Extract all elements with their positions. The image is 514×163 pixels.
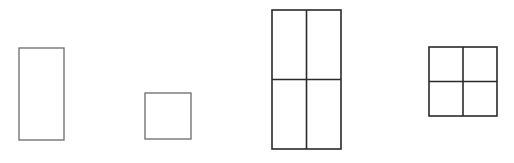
- small-square-outline: [145, 93, 191, 139]
- tall-rectangle-divided-into-four: [272, 10, 341, 149]
- small-square: [145, 93, 191, 139]
- tall-rectangle: [19, 48, 64, 140]
- diagram-canvas: [0, 0, 514, 163]
- tall-rectangle-outline: [19, 48, 64, 140]
- square-divided-into-four: [429, 47, 497, 116]
